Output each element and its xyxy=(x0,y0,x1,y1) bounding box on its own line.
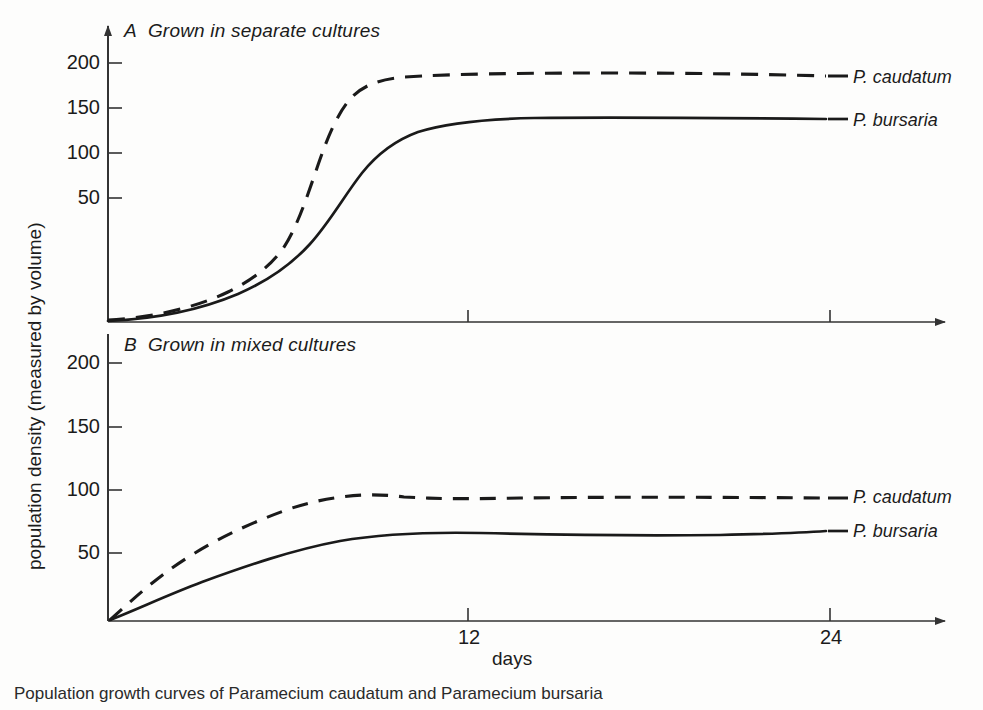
figure-caption: Population growth curves of Paramecium c… xyxy=(14,684,603,704)
panel-a-ylabel-150: 150 xyxy=(48,96,100,119)
panel-b-letter: B xyxy=(124,334,137,355)
panel-a-axes xyxy=(108,26,945,322)
panel-b-ylabel-200: 200 xyxy=(48,351,100,374)
figure-container: population density (measured by volume) … xyxy=(0,0,983,710)
panel-b-ylabel-50: 50 xyxy=(48,541,100,564)
panel-a-heading: AGrown in separate cultures xyxy=(124,20,380,42)
panel-b-series-label-caudatum: P. caudatum xyxy=(853,487,952,508)
caption-strip: Population growth curves of Paramecium c… xyxy=(0,684,983,710)
panel-b-ylabel-100: 100 xyxy=(48,478,100,501)
panel-a-ylabel-100: 100 xyxy=(48,141,100,164)
panel-a-series-label-bursaria: P. bursaria xyxy=(853,110,938,131)
panel-b-xlabel-12: 12 xyxy=(453,626,485,649)
panel-b-xlabel-24: 24 xyxy=(815,626,847,649)
y-axis-title: population density (measured by volume) xyxy=(24,223,46,570)
panel-b-heading-text: Grown in mixed cultures xyxy=(148,334,356,355)
panel-a-ylabel-200: 200 xyxy=(48,51,100,74)
panel-a-series-label-caudatum: P. caudatum xyxy=(853,67,952,88)
panel-b-heading: BGrown in mixed cultures xyxy=(124,334,356,356)
panel-a-heading-text: Grown in separate cultures xyxy=(148,20,380,41)
panel-a-series-bursaria xyxy=(108,118,826,321)
panel-b-series-bursaria xyxy=(110,531,826,620)
x-axis-title: days xyxy=(492,648,532,670)
panel-b-ylabel-150: 150 xyxy=(48,415,100,438)
panel-b-axes xyxy=(108,334,945,621)
panel-b-series-label-bursaria: P. bursaria xyxy=(853,521,938,542)
panel-a-ylabel-50: 50 xyxy=(48,186,100,209)
panel-b-series-caudatum xyxy=(110,495,826,620)
panel-a-letter: A xyxy=(124,20,137,41)
panel-a-series-caudatum xyxy=(108,73,826,320)
